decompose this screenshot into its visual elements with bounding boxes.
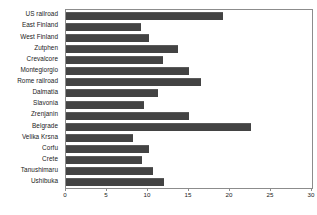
category-label: Zutphen <box>0 42 62 53</box>
bar-row <box>66 32 312 43</box>
axis-tick-label: 20 <box>226 192 233 198</box>
plot-area <box>65 9 313 189</box>
bar <box>66 56 163 64</box>
bar <box>66 34 149 42</box>
bars-layer <box>66 10 312 188</box>
bar <box>66 23 141 31</box>
bar-row <box>66 177 312 188</box>
bar-row <box>66 99 312 110</box>
category-label: Dalmatia <box>0 87 62 98</box>
bar <box>66 112 189 120</box>
bar-row <box>66 43 312 54</box>
bar <box>66 156 142 164</box>
category-label: Belgrade <box>0 120 62 131</box>
bar-row <box>66 166 312 177</box>
bar <box>66 145 149 153</box>
category-label: West Finland <box>0 31 62 42</box>
bar-row <box>66 110 312 121</box>
bar-row <box>66 10 312 21</box>
value-axis: 051015202530 <box>65 188 313 210</box>
category-axis: US railroadEast FinlandWest FinlandZutph… <box>0 9 62 187</box>
bar <box>66 101 144 109</box>
bar <box>66 78 201 86</box>
bar <box>66 12 223 20</box>
category-label: East Finland <box>0 20 62 31</box>
category-label: Montegiorgio <box>0 65 62 76</box>
bar-row <box>66 132 312 143</box>
bar-row <box>66 144 312 155</box>
bar-row <box>66 155 312 166</box>
bar-row <box>66 55 312 66</box>
axis-tick-label: 15 <box>185 192 192 198</box>
category-label: Crevalcore <box>0 54 62 65</box>
bar <box>66 89 158 97</box>
bar <box>66 134 133 142</box>
bar-row <box>66 88 312 99</box>
axis-tick-label: 5 <box>104 192 107 198</box>
bar <box>66 178 164 186</box>
bar <box>66 123 251 131</box>
category-label: Ushibuka <box>0 176 62 187</box>
bar <box>66 167 153 175</box>
bar-row <box>66 77 312 88</box>
axis-tick-label: 10 <box>144 192 151 198</box>
axis-tick-label: 30 <box>308 192 315 198</box>
category-label: Corfu <box>0 143 62 154</box>
bar <box>66 45 178 53</box>
bar-row <box>66 121 312 132</box>
category-label: Rome railroad <box>0 76 62 87</box>
axis-tick-label: 25 <box>267 192 274 198</box>
category-label: Tanushimaru <box>0 165 62 176</box>
category-label: Slavonia <box>0 98 62 109</box>
category-label: Velika Krsna <box>0 131 62 142</box>
bar-row <box>66 21 312 32</box>
bar <box>66 67 189 75</box>
axis-tick-label: 0 <box>63 192 66 198</box>
category-label: Zrenjanin <box>0 109 62 120</box>
category-label: US railroad <box>0 9 62 20</box>
category-label: Crete <box>0 154 62 165</box>
bar-chart: US railroadEast FinlandWest FinlandZutph… <box>0 0 317 215</box>
bar-row <box>66 66 312 77</box>
